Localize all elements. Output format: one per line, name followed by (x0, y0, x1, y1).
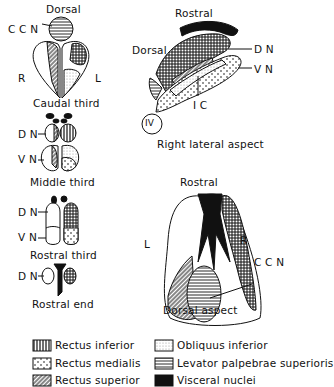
dorsal-ccn-label: C C N (254, 256, 284, 268)
legend-label-rectus-inferior: Rectus inferior (55, 339, 134, 351)
middle-third-figure (38, 114, 79, 171)
lateral-dn-label: D N (254, 43, 274, 55)
middle-vn-label: V N (18, 153, 37, 165)
dorsal-l-label: L (144, 238, 150, 250)
legend-label-rectus-medialis: Rectus medialis (55, 357, 141, 369)
caudal-third-figure (33, 17, 89, 98)
dorsal-caption: Dorsal aspect (163, 304, 238, 316)
lateral-caption: Right lateral aspect (157, 138, 264, 150)
lateral-dorsal-label: Dorsal (132, 44, 167, 56)
rostral-dn-label: D N (18, 206, 38, 218)
lateral-rostral-label: Rostral (175, 7, 213, 19)
rostral-end-dn-label: D N (18, 270, 38, 282)
dorsal-r-label: R (240, 234, 248, 246)
rostral-vn-label: V N (18, 231, 37, 243)
caudal-l-label: L (95, 72, 101, 84)
legend-label-visceral: Visceral nuclei (177, 374, 256, 386)
legend-label-levator: Levator palpebrae superioris (177, 357, 334, 369)
lateral-vn-label: V N (254, 63, 273, 75)
caudal-caption: Caudal third (33, 97, 100, 109)
rostral-caption: Rostral third (30, 249, 97, 261)
rostral-end-caption: Rostral end (32, 298, 94, 310)
middle-dn-label: D N (18, 128, 38, 140)
lateral-iv-label: IV (145, 118, 154, 128)
lateral-ic-label: I C (193, 99, 207, 111)
middle-caption: Middle third (30, 176, 95, 188)
rostral-third-figure (38, 196, 78, 245)
legend-label-obliquus-inferior: Obliquus inferior (177, 339, 268, 351)
caudal-ccn-label: C C N (8, 23, 38, 35)
legend-label-rectus-superior: Rectus superior (55, 374, 140, 386)
rostral-end-figure (38, 264, 76, 296)
caudal-r-label: R (18, 72, 26, 84)
caudal-dorsal-label: Dorsal (46, 3, 81, 15)
lateral-aspect-figure (142, 21, 252, 134)
dorsal-rostral-label: Rostral (180, 176, 218, 188)
